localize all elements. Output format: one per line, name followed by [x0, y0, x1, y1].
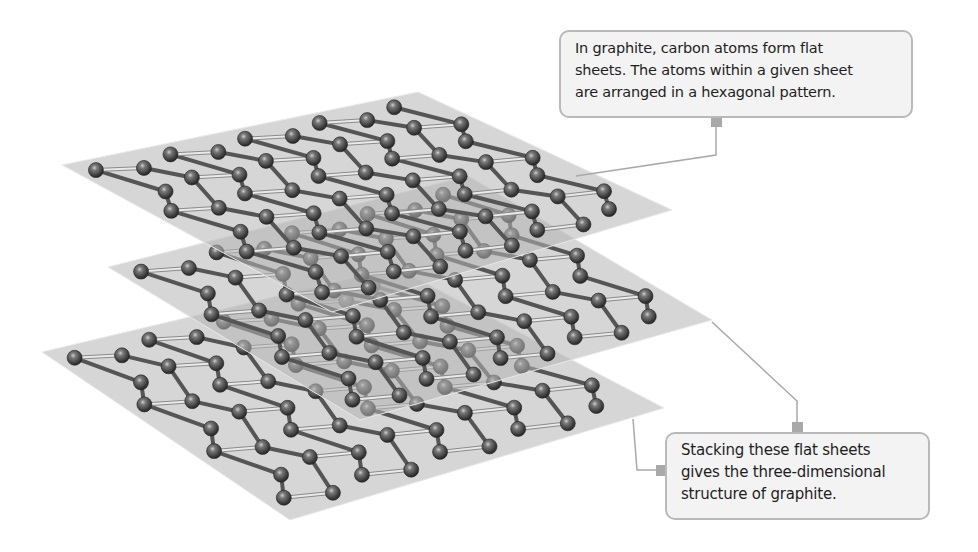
callout-flat-sheets: In graphite, carbon atoms form flat shee…: [559, 30, 913, 118]
callout-bottom-line-1: Stacking these flat sheets: [681, 439, 918, 461]
callout-bottom-line-3: structure of graphite.: [681, 483, 918, 505]
callout-stacking-sheets: Stacking these flat sheets gives the thr…: [665, 432, 930, 520]
callout-bottom-line-2: gives the three-dimensional: [681, 461, 918, 483]
callout-top-line-3: are arranged in a hexagonal pattern.: [575, 81, 901, 103]
callout-top-line-1: In graphite, carbon atoms form flat: [575, 37, 901, 59]
callout-top-line-2: sheets. The atoms within a given sheet: [575, 59, 901, 81]
